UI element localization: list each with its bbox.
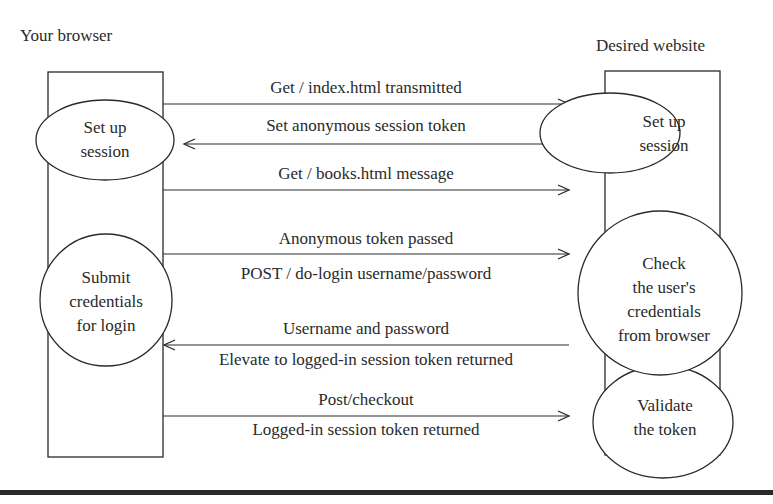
message-label-anon-token: Set anonymous session token	[266, 116, 466, 136]
message-label-elevate: Elevate to logged-in session token retur…	[219, 350, 513, 370]
website-validate-label: Validate the token	[634, 394, 697, 442]
message-label-logged-in: Logged-in session token returned	[252, 420, 479, 440]
browser-actor-title: Your browser	[20, 26, 112, 46]
message-label-do-login: POST / do-login username/password	[241, 264, 491, 284]
website-actor-title: Desired website	[596, 36, 705, 56]
browser-setup-label: Set up session	[80, 116, 129, 164]
message-label-anon-passed: Anonymous token passed	[279, 229, 454, 249]
message-label-username: Username and password	[283, 319, 449, 339]
website-setup-label: Set up session	[639, 110, 688, 158]
message-label-index: Get / index.html transmitted	[270, 78, 462, 98]
message-label-checkout: Post/checkout	[318, 390, 413, 410]
bottom-rule	[0, 490, 773, 495]
browser-submit-label: Submit credentials for login	[69, 266, 143, 338]
message-label-books: Get / books.html message	[278, 164, 454, 184]
website-check-label: Check the user's credentials from browse…	[618, 252, 710, 348]
